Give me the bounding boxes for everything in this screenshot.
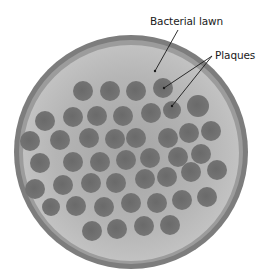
plaque <box>20 131 40 151</box>
plaque <box>141 103 161 123</box>
plaque <box>172 190 192 210</box>
plaque <box>53 175 73 195</box>
plaque <box>179 123 199 143</box>
plaque <box>105 129 125 149</box>
plaque <box>160 215 180 235</box>
plaque <box>121 193 141 213</box>
plaque <box>126 128 146 148</box>
plaque <box>197 187 217 207</box>
plaque <box>157 167 177 187</box>
plaque <box>100 81 120 101</box>
plaque <box>66 196 86 216</box>
plaque <box>106 173 126 193</box>
lawn-pointer-dot <box>154 70 156 72</box>
plaque <box>63 107 83 127</box>
bacterial-lawn-label: Bacterial lawn <box>150 15 223 27</box>
plaque <box>158 128 178 148</box>
petri-dish-figure <box>0 0 267 275</box>
plaque <box>30 153 50 173</box>
plaque <box>140 148 160 168</box>
plaque <box>90 152 110 172</box>
plaque <box>25 179 45 199</box>
plaque <box>87 106 107 126</box>
plaque <box>147 193 167 213</box>
plaque <box>135 169 155 189</box>
plaque <box>163 101 181 119</box>
plaque <box>191 144 211 164</box>
plaque <box>207 160 227 180</box>
plaque <box>73 81 93 101</box>
plaque <box>116 150 136 170</box>
plaque <box>126 81 146 101</box>
plaque <box>94 197 114 217</box>
plaque <box>181 162 201 182</box>
plaque <box>201 121 221 141</box>
plaque <box>134 216 154 236</box>
plaque <box>107 219 127 239</box>
plaque <box>81 173 101 193</box>
plaque <box>35 111 55 131</box>
plaque <box>42 198 60 216</box>
plaque <box>187 95 209 117</box>
plaque <box>113 106 133 126</box>
plaque <box>82 221 102 241</box>
plaque <box>79 128 99 148</box>
plaque <box>50 130 70 150</box>
plaque-pointer-dot-2 <box>171 105 173 107</box>
plaque <box>63 152 83 172</box>
plaque-pointer-dot-1 <box>163 87 165 89</box>
plaques-label: Plaques <box>215 49 255 61</box>
